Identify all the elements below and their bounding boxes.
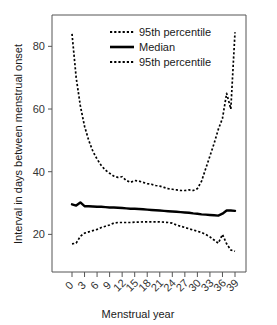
y-tick-label: 60: [33, 103, 45, 115]
y-tick-label: 40: [33, 166, 45, 178]
y-tick-label: 80: [33, 40, 45, 52]
legend-label-2: 95th percentile: [139, 56, 211, 68]
chart-svg: 20406080 036912151821242730333639 95th p…: [0, 0, 277, 325]
x-axis-title: Menstrual year: [102, 308, 175, 320]
chart-figure: 20406080 036912151821242730333639 95th p…: [0, 0, 277, 325]
legend-label-0: 95th percentile: [139, 26, 211, 38]
legend-label-1: Median: [139, 41, 175, 53]
y-axis-title: Interval in days between menstrual onset: [12, 44, 24, 244]
y-tick-label: 20: [33, 228, 45, 240]
